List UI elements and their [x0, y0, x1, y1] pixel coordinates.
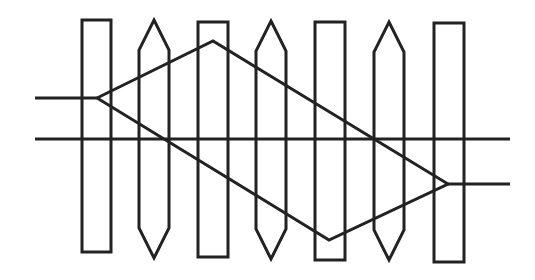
diagram-canvas	[0, 0, 535, 280]
rect-bar-1	[82, 20, 111, 252]
rect-bar-7	[434, 23, 464, 262]
horizontal-lines-group	[35, 98, 510, 184]
rect-bar-5	[315, 22, 345, 260]
vertical-bars-group	[82, 20, 464, 262]
diagram-svg	[0, 0, 535, 280]
